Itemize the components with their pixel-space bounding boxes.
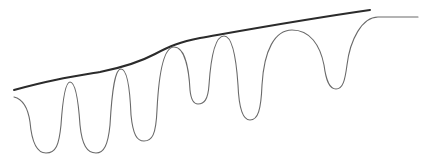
diagram-canvas (0, 0, 426, 163)
oscillating-wave (14, 17, 418, 153)
envelope-line (14, 10, 370, 90)
